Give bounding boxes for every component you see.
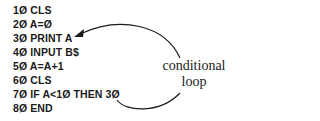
loop-arrow-lower-curve — [117, 93, 180, 109]
loop-arrow-upper-curve — [80, 24, 180, 58]
arrowhead-icon — [74, 29, 84, 37]
label-line-conditional: conditional — [158, 58, 230, 74]
conditional-loop-label: conditional loop — [158, 58, 230, 90]
label-line-loop: loop — [158, 74, 230, 90]
